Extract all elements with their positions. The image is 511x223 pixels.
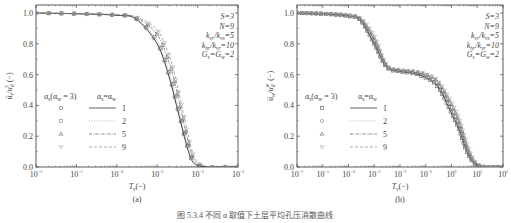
y-tick-label: 0.2: [23, 132, 33, 141]
triangle-down-marker-icon: [486, 166, 490, 169]
triangle-down-marker-icon: [496, 166, 500, 169]
figure-caption: 图 5.3.4 不同 α 取值下土层平均孔压消散曲线: [177, 210, 333, 220]
legend-value: 9: [122, 143, 126, 152]
x-tick-label: 10⁻⁴: [111, 170, 124, 179]
plot-frame: [36, 5, 238, 167]
x-tick-label: 10⁻⁶: [30, 170, 43, 179]
y-tick-label: 0.6: [284, 71, 294, 80]
param-label: S=3: [221, 12, 234, 21]
triangle-up-marker-icon: [59, 132, 63, 135]
y-tick-label: 0.2: [284, 132, 294, 141]
x-tick-label: 10⁻¹: [420, 170, 433, 179]
param-label: kvr​/kvs​=5: [471, 31, 499, 41]
x-tick-label: 10⁻²: [394, 170, 407, 179]
plot-frame: [297, 5, 503, 167]
panel-label: (b): [395, 195, 405, 204]
x-tick-label: 10⁻³: [151, 170, 164, 179]
legend-value: 5: [383, 130, 387, 139]
param-label: Gs​=Gw​=2: [467, 50, 499, 60]
legend-marker-header: αs​(αw​ = 3): [44, 92, 77, 102]
param-label: khr​/kvr​=10: [467, 41, 499, 51]
x-tick-label: 10⁻²: [192, 170, 205, 179]
x-tick-label: 10⁻³: [368, 170, 381, 179]
y-tick-label: 1.0: [284, 9, 294, 18]
y-tick-label: 0.4: [23, 101, 33, 110]
param-label: khr​/kvr​=10: [202, 41, 234, 51]
legend-value: 5: [122, 130, 126, 139]
x-tick-label: 10⁻⁵: [317, 170, 330, 179]
param-label: S=3: [486, 12, 499, 21]
circle-marker-icon: [59, 106, 62, 109]
legend-marker-header: αs​(αw​ = 3): [305, 92, 338, 102]
legend-line-header: αs​=αw​: [97, 92, 116, 102]
y-tick-label: 0.8: [284, 40, 294, 49]
triangle-up-marker-icon: [320, 132, 324, 135]
x-tick-label: 10⁰: [446, 170, 456, 179]
legend-value: 1: [122, 104, 126, 113]
panel-label: (a): [133, 195, 142, 204]
legend-value: 2: [383, 117, 387, 126]
legend-line-header: αs​=αw​: [358, 92, 377, 102]
panel-a: 0.00.20.40.60.81.010⁻⁶10⁻⁵10⁻⁴10⁻³10⁻²10…: [3, 5, 245, 204]
y-tick-label: 0.6: [23, 71, 33, 80]
x-tick-label: 10⁻⁴: [342, 170, 355, 179]
triangle-down-marker-icon: [320, 146, 324, 149]
y-tick-label: 0.4: [284, 101, 294, 110]
y-tick-label: 0.8: [23, 40, 33, 49]
x-tick-label: 10²: [498, 170, 508, 179]
y-axis-label: ūs/u0s (−): [3, 72, 15, 99]
triangle-down-marker-icon: [491, 166, 495, 169]
param-label: kvr​/kvs​=5: [206, 31, 234, 41]
panel-b: 0.00.20.40.60.81.010⁻⁶10⁻⁵10⁻⁴10⁻³10⁻²10…: [264, 5, 508, 204]
x-tick-label: 10¹: [473, 170, 483, 179]
figure: 0.00.20.40.60.81.010⁻⁶10⁻⁵10⁻⁴10⁻³10⁻²10…: [0, 0, 511, 223]
param-label: Gs​=Gw​=2: [202, 50, 234, 60]
x-tick-label: 10⁻⁵: [70, 170, 83, 179]
x-axis-label: Tv(−): [129, 182, 146, 192]
legend-value: 2: [122, 117, 126, 126]
x-axis-label: Tv(−): [392, 182, 409, 192]
x-tick-label: 10⁻¹: [232, 170, 245, 179]
param-label: N=9: [483, 22, 499, 31]
legend-value: 1: [383, 104, 387, 113]
circle-marker-icon: [320, 119, 323, 122]
triangle-down-marker-icon: [59, 146, 63, 149]
y-tick-label: 1.0: [23, 9, 33, 18]
square-marker-icon: [59, 119, 62, 122]
legend-value: 9: [383, 143, 387, 152]
x-tick-label: 10⁻⁶: [291, 170, 304, 179]
square-marker-icon: [320, 106, 323, 109]
y-axis-label: ūw/u0w (−): [264, 71, 276, 102]
param-label: N=9: [218, 22, 234, 31]
